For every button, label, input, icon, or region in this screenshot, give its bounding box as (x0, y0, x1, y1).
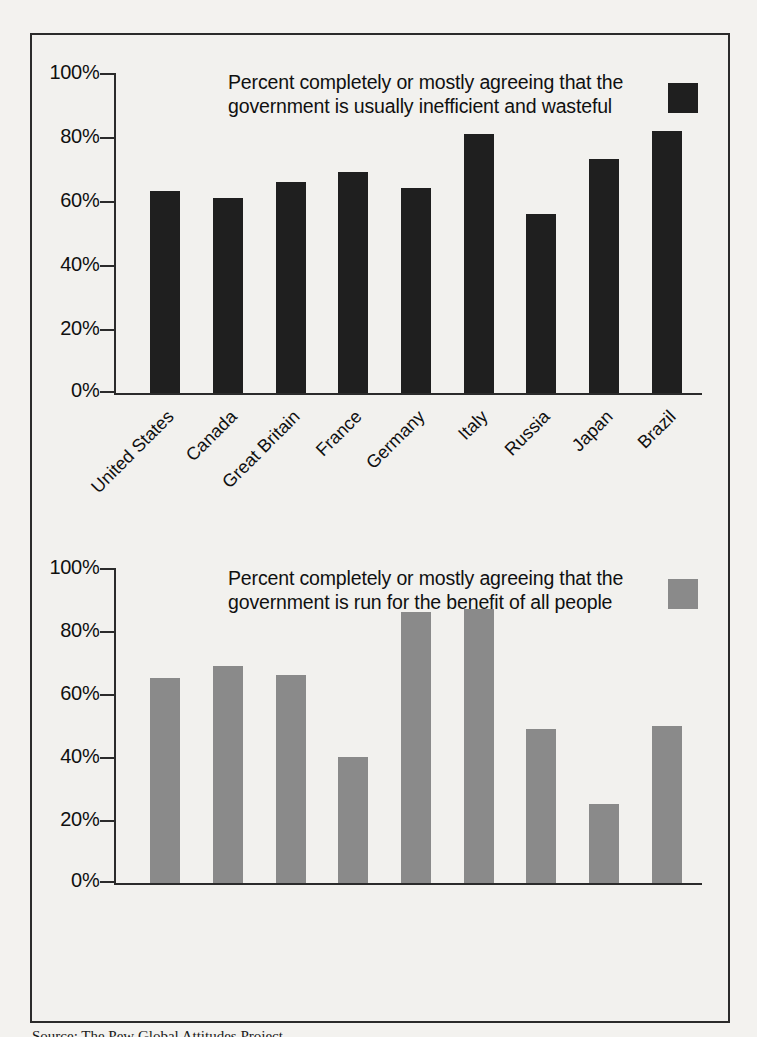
y-tick-label: 0% (71, 379, 99, 402)
chart-panel-inefficient-wasteful: Percent completely or mostly agreeing th… (32, 49, 732, 519)
bar-slot (573, 568, 636, 883)
cat-slot: Italy (447, 401, 510, 411)
bar-slot (322, 73, 385, 393)
y-tick-label: 80% (60, 619, 99, 642)
bar-united-states (150, 678, 180, 883)
bar-slot (510, 73, 573, 393)
chart-panel-benefit-all-people: Percent completely or mostly agreeing th… (32, 525, 732, 995)
y-tick-80-top: 80% (100, 137, 116, 139)
y-tick-40-top: 40% (100, 265, 116, 267)
bar-slot (385, 568, 448, 883)
bar-slot (635, 73, 698, 393)
y-tick-label: 40% (60, 745, 99, 768)
plot-area-top: 100% 80% 60% 40% 20% 0% (114, 73, 702, 393)
x-label-russia: Russia (501, 405, 556, 460)
cat-slot: Canada (197, 401, 260, 411)
y-tick-label: 60% (60, 682, 99, 705)
y-tick-label: 20% (60, 317, 99, 340)
y-tick-60-top: 60% (100, 201, 116, 203)
bar-slot (197, 568, 260, 883)
cat-slot: United States (134, 401, 197, 411)
bar-group-bottom (116, 568, 702, 883)
cat-slot: France (322, 401, 385, 411)
bar-slot (259, 568, 322, 883)
y-tick-80-bottom: 80% (100, 631, 116, 633)
x-axis-line-top (114, 393, 702, 395)
chart-page: Percent completely or mostly agreeing th… (0, 0, 757, 1037)
x-label-germany: Germany (362, 405, 431, 474)
bar-japan (589, 159, 619, 393)
y-tick-60-bottom: 60% (100, 694, 116, 696)
bar-russia (526, 214, 556, 393)
bar-slot (635, 568, 698, 883)
bar-brazil (652, 131, 682, 393)
bar-slot (510, 568, 573, 883)
y-tick-label: 0% (71, 869, 99, 892)
x-label-france: France (312, 405, 368, 461)
bar-united-states (150, 191, 180, 393)
bar-japan (589, 804, 619, 883)
y-tick-label: 100% (49, 556, 99, 579)
bar-great-britain (276, 182, 306, 393)
y-tick-label: 20% (60, 808, 99, 831)
source-caption: Source: The Pew Global Attitudes Project (32, 1028, 283, 1037)
cat-slot: Germany (385, 401, 448, 411)
chart-frame: Percent completely or mostly agreeing th… (30, 33, 730, 1023)
bar-slot (259, 73, 322, 393)
bar-slot (385, 73, 448, 393)
bar-slot (134, 73, 197, 393)
x-label-japan: Japan (568, 405, 619, 456)
x-label-canada: Canada (182, 405, 243, 466)
bar-slot (322, 568, 385, 883)
cat-slot: Japan (573, 401, 636, 411)
x-label-united-states: United States (88, 405, 181, 498)
y-tick-100-bottom: 100% (100, 568, 116, 570)
y-tick-label: 60% (60, 189, 99, 212)
bar-russia (526, 729, 556, 883)
bar-slot (447, 73, 510, 393)
x-label-italy: Italy (454, 405, 494, 445)
bar-germany (401, 612, 431, 883)
bar-slot (134, 568, 197, 883)
y-tick-label: 80% (60, 125, 99, 148)
bar-france (338, 757, 368, 883)
bar-canada (213, 198, 243, 393)
y-tick-100-top: 100% (100, 73, 116, 75)
bar-great-britain (276, 675, 306, 883)
bar-slot (447, 568, 510, 883)
bar-france (338, 172, 368, 393)
plot-area-bottom: 100% 80% 60% 40% 20% 0% (114, 568, 702, 883)
cat-slot: Brazil (635, 401, 698, 411)
bar-canada (213, 666, 243, 883)
cat-slot: Russia (510, 401, 573, 411)
x-label-brazil: Brazil (633, 405, 681, 453)
bar-slot (197, 73, 260, 393)
y-tick-label: 40% (60, 253, 99, 276)
cat-slot: Great Britain (259, 401, 322, 411)
y-tick-20-top: 20% (100, 329, 116, 331)
bar-brazil (652, 726, 682, 884)
x-axis-line-bottom (114, 883, 702, 885)
y-tick-20-bottom: 20% (100, 820, 116, 822)
bar-slot (573, 73, 636, 393)
bar-germany (401, 188, 431, 393)
x-axis-labels-top: United States Canada Great Britain Franc… (116, 401, 702, 411)
y-tick-label: 100% (49, 61, 99, 84)
bar-group-top (116, 73, 702, 393)
bar-italy (464, 609, 494, 883)
y-tick-40-bottom: 40% (100, 757, 116, 759)
bar-italy (464, 134, 494, 393)
